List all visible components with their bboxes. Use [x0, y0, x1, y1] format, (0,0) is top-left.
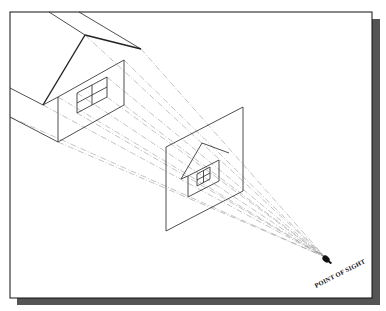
perspective-diagram: POINT OF SIGHT: [0, 0, 386, 311]
frame: [10, 12, 372, 298]
